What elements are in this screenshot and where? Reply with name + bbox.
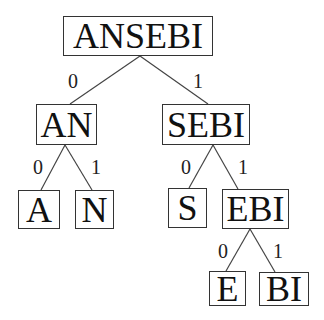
node-n: N xyxy=(75,190,114,229)
edge-label-root-left: 0 xyxy=(68,70,78,93)
edge-label-root-right: 1 xyxy=(193,70,203,93)
edge-label-ebi-left: 0 xyxy=(218,240,228,263)
edge-label-ebi-right: 1 xyxy=(273,240,283,263)
node-ebi: EBI xyxy=(222,189,289,229)
node-root: ANSEBI xyxy=(63,16,213,56)
node-a: A xyxy=(18,190,60,229)
node-sebi: SEBI xyxy=(162,104,250,145)
node-s: S xyxy=(168,188,207,228)
node-e: E xyxy=(209,271,246,306)
edge-label-sebi-right: 1 xyxy=(238,156,248,179)
node-an: AN xyxy=(36,104,97,145)
edge-label-an-right: 1 xyxy=(91,156,101,179)
node-bi: BI xyxy=(259,272,309,306)
edge-label-an-left: 0 xyxy=(33,156,43,179)
edge-label-sebi-left: 0 xyxy=(181,156,191,179)
